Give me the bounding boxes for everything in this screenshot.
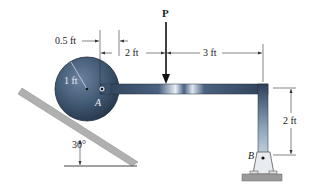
incline-angle-label: 30° bbox=[72, 140, 86, 150]
pin-b-label: B bbox=[248, 151, 254, 161]
diagram-canvas: P 0.5 ft 2 ft 3 ft 2 ft 1 ft A B 30° bbox=[0, 0, 319, 193]
distance-load-to-corner-label: 3 ft bbox=[203, 48, 217, 58]
bent-bar bbox=[99, 84, 268, 156]
vertical-height-label: 2 ft bbox=[283, 116, 297, 126]
distance-a-to-load-label: 2 ft bbox=[125, 48, 139, 58]
load-label-p: P bbox=[162, 8, 169, 19]
wheel-radius-label: 1 ft bbox=[64, 76, 78, 86]
pin-b-icon bbox=[261, 156, 264, 159]
pin-a-label: A bbox=[95, 98, 101, 108]
offset-dimension-label: 0.5 ft bbox=[55, 36, 76, 46]
ground bbox=[242, 174, 282, 181]
